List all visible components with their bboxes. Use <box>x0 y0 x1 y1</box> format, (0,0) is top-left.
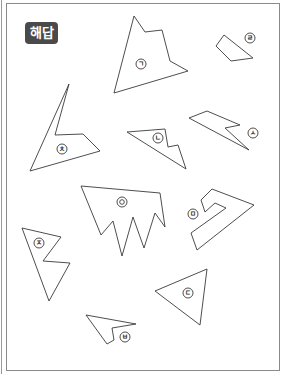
label-rieul: ㄹ <box>247 34 253 42</box>
piece-siot-outline <box>189 111 249 150</box>
piece-mieum: ㅁ <box>188 189 254 250</box>
piece-giyeok-outline <box>114 16 188 93</box>
piece-digeut-outline <box>155 269 207 325</box>
piece-jieut-outline <box>22 228 70 301</box>
piece-ieung-outline <box>81 186 165 256</box>
piece-siot: ㅅ <box>189 111 258 150</box>
piece-nieun: ㄴ <box>127 129 186 169</box>
piece-jieut: ㅈ <box>22 228 70 301</box>
piece-bieup: ㅂ <box>86 315 136 344</box>
piece-digeut: ㄷ <box>155 269 207 325</box>
label-digeut: ㄷ <box>185 289 191 297</box>
label-siot: ㅅ <box>250 129 256 137</box>
piece-ieung: ㅇ <box>81 186 165 256</box>
puzzle-pieces: ㄱ ㄹ ㅊ ㄴ ㅅ ㅇ ㅁ ㅈ <box>0 0 292 379</box>
label-mieum: ㅁ <box>190 210 196 218</box>
piece-giyeok: ㄱ <box>114 16 188 93</box>
piece-rieul: ㄹ <box>216 33 255 61</box>
label-giyeok: ㄱ <box>138 60 144 68</box>
label-bieup: ㅂ <box>122 333 128 341</box>
label-chieut: ㅊ <box>59 145 65 153</box>
label-nieun: ㄴ <box>155 134 161 142</box>
piece-chieut-outline <box>30 84 100 171</box>
piece-mieum-outline <box>191 189 254 250</box>
piece-chieut: ㅊ <box>30 84 100 171</box>
label-jieut: ㅈ <box>36 239 42 247</box>
